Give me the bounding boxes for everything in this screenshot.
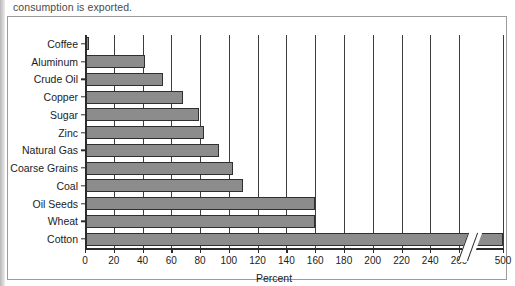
- bar: [85, 233, 503, 246]
- y-axis-line: [85, 35, 87, 248]
- bar-row: Coal: [85, 179, 503, 192]
- bar-row: Aluminum: [85, 55, 503, 68]
- bar: [85, 73, 163, 86]
- x-axis-tick-label: 20: [108, 255, 119, 266]
- gridline: [503, 35, 504, 248]
- bar-row: Sugar: [85, 108, 503, 121]
- bar: [85, 108, 199, 121]
- bar-chart-plot-area: CoffeeAluminumCrude OilCopperSugarZincNa…: [85, 35, 503, 259]
- x-axis-tick: [258, 248, 259, 253]
- bar-row: Wheat: [85, 215, 503, 228]
- x-axis-line: [85, 248, 503, 250]
- category-label: Cotton: [47, 234, 78, 245]
- x-axis-tick: [143, 248, 144, 253]
- category-label: Natural Gas: [22, 145, 78, 156]
- category-label: Sugar: [50, 110, 78, 121]
- bar: [85, 144, 219, 157]
- x-axis-tick-label: 140: [278, 255, 295, 266]
- x-axis-tick-label: 40: [137, 255, 148, 266]
- bar: [85, 91, 183, 104]
- x-axis-tick-label: 60: [166, 255, 177, 266]
- category-label: Wheat: [48, 216, 78, 227]
- bar-row: Zinc: [85, 126, 503, 139]
- caption-text: consumption is exported.: [13, 1, 132, 13]
- x-axis-tick: [344, 248, 345, 253]
- x-axis-tick: [200, 248, 201, 253]
- x-axis-tick-label: 240: [422, 255, 439, 266]
- category-label: Crude Oil: [34, 74, 78, 85]
- bar-row: Cotton: [85, 233, 503, 246]
- page-edge-shadow: [0, 0, 5, 286]
- x-axis-tick-label: 180: [336, 255, 353, 266]
- category-label: Copper: [44, 92, 78, 103]
- bar-row: Oil Seeds: [85, 197, 503, 210]
- x-axis-tick-label: 500: [495, 255, 512, 266]
- x-axis-tick: [430, 248, 431, 253]
- x-axis-tick-label: 200: [364, 255, 381, 266]
- category-label: Aluminum: [31, 56, 78, 67]
- x-axis-tick-label: 100: [220, 255, 237, 266]
- bar-row: Natural Gas: [85, 144, 503, 157]
- x-axis-tick: [85, 248, 86, 253]
- category-label: Zinc: [58, 127, 78, 138]
- x-axis-tick-label: 120: [249, 255, 266, 266]
- bar: [85, 126, 204, 139]
- bar-row: Coffee: [85, 37, 503, 50]
- bar-row: Coarse Grains: [85, 162, 503, 175]
- bar-row: Crude Oil: [85, 73, 503, 86]
- bar: [85, 197, 315, 210]
- x-axis-tick: [171, 248, 172, 253]
- bar: [85, 55, 145, 68]
- x-axis-tick-label: 0: [82, 255, 88, 266]
- category-label: Coarse Grains: [10, 163, 78, 174]
- bar: [85, 179, 243, 192]
- x-axis-tick-label: 160: [307, 255, 324, 266]
- x-axis-tick: [229, 248, 230, 253]
- x-axis-tick: [315, 248, 316, 253]
- category-label: Coffee: [47, 39, 78, 50]
- x-axis-tick: [114, 248, 115, 253]
- x-axis-title: Percent: [256, 272, 292, 284]
- bar: [85, 215, 315, 228]
- x-axis-tick: [503, 248, 504, 253]
- x-axis-tick-label: 80: [195, 255, 206, 266]
- chart-frame: CoffeeAluminumCrude OilCopperSugarZincNa…: [7, 16, 507, 280]
- bar: [85, 162, 233, 175]
- category-label: Coal: [56, 181, 78, 192]
- bar-row: Copper: [85, 91, 503, 104]
- x-axis-tick: [286, 248, 287, 253]
- category-label: Oil Seeds: [32, 198, 78, 209]
- x-axis-tick: [402, 248, 403, 253]
- x-axis-tick: [373, 248, 374, 253]
- x-axis-tick-label: 220: [393, 255, 410, 266]
